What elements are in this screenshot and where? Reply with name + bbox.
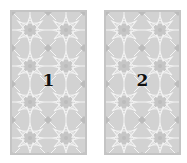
card-table: 1 2 (0, 0, 187, 163)
card-number-label: 2 (106, 70, 179, 90)
card-number-label: 1 (12, 70, 85, 90)
card-2[interactable]: 2 (104, 10, 181, 155)
card-1[interactable]: 1 (10, 10, 87, 155)
